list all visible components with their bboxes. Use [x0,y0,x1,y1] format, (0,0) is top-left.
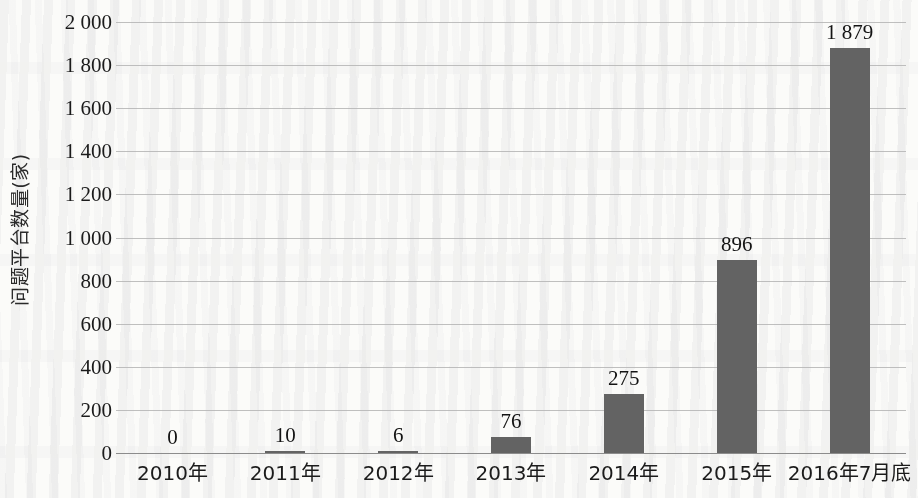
bar-value-label: 0 [167,427,178,448]
y-axis-tick-label: 2 000 [40,12,112,33]
y-axis-tick-label: 1 400 [40,141,112,162]
gridline [116,22,906,23]
x-axis-tick-label: 2016年7月底 [788,462,912,485]
y-axis-tick-label: 400 [40,356,112,377]
bar-value-label: 10 [275,425,296,446]
bar-value-label: 275 [608,368,640,389]
bar-value-label: 1 879 [826,22,873,43]
gridline [116,367,906,368]
x-axis-tick-label: 2010年 [137,462,208,485]
bar [491,437,531,453]
bar [717,260,757,453]
bar-value-label: 896 [721,234,753,255]
y-axis-tick-label: 800 [40,270,112,291]
y-axis-tick-label: 600 [40,313,112,334]
gridline [116,238,906,239]
y-axis-tick-label: 0 [40,443,112,464]
gridline [116,65,906,66]
y-axis-tick-label: 1 200 [40,184,112,205]
y-axis-title: 问题平台数量(家) [0,0,36,458]
bar-chart-figure: 问题平台数量(家) 02004006008001 0001 2001 4001 … [0,0,918,498]
gridline [116,281,906,282]
x-axis-tick-label: 2011年 [250,462,321,485]
x-axis-tick-label: 2012年 [363,462,434,485]
y-axis-tick-label: 1 800 [40,55,112,76]
gridline [116,108,906,109]
y-axis-tick-label: 1 000 [40,227,112,248]
y-axis-tick-label: 1 600 [40,98,112,119]
x-axis-baseline [116,453,906,454]
plot-area: 0106762758961 879 [116,0,906,455]
y-axis-tick-labels: 02004006008001 0001 2001 4001 6001 8002 … [36,0,112,498]
x-axis-tick-labels: 2010年2011年2012年2013年2014年2015年2016年7月底 [116,462,906,498]
y-axis-tick-label: 200 [40,399,112,420]
x-axis-tick-label: 2014年 [588,462,659,485]
gridline [116,194,906,195]
bar [265,451,305,453]
x-axis-tick-label: 2013年 [476,462,547,485]
bar [378,451,418,453]
gridline [116,151,906,152]
bar-value-label: 76 [501,411,522,432]
y-axis-title-text: 问题平台数量(家) [5,153,32,305]
bar [604,394,644,453]
bar-value-label: 6 [393,425,404,446]
gridline [116,324,906,325]
bar [830,48,870,453]
x-axis-tick-label: 2015年 [701,462,772,485]
